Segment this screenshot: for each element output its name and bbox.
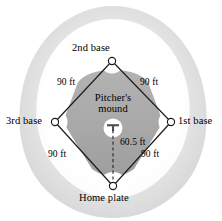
distance-label-third-to-home: 90 ft	[48, 150, 66, 160]
pitchers-mound-graphic	[104, 119, 123, 138]
baseball-diamond-figure: 2nd base 3rd base 1st base Home plate Pi…	[0, 0, 222, 221]
pitchers-mound-label: Pitcher's mound	[80, 93, 146, 115]
pitching-rubber-bar	[107, 124, 119, 126]
distance-label-home-to-first: 90 ft	[141, 150, 159, 160]
third-base-marker	[51, 118, 58, 125]
third-base-label: 3rd base	[6, 116, 42, 127]
home-plate-label: Home plate	[79, 193, 129, 204]
pitchers-mound-label-line2: mound	[80, 104, 146, 115]
distance-label-first-to-second: 90 ft	[140, 78, 158, 88]
second-base-marker	[108, 57, 115, 64]
first-base-marker	[167, 118, 174, 125]
second-base-label: 2nd base	[72, 43, 110, 54]
distance-label-home-to-mound: 60.5 ft	[120, 138, 146, 148]
distance-label-second-to-third: 90 ft	[57, 78, 75, 88]
first-base-label: 1st base	[178, 116, 212, 127]
home-plate-marker	[109, 182, 116, 189]
